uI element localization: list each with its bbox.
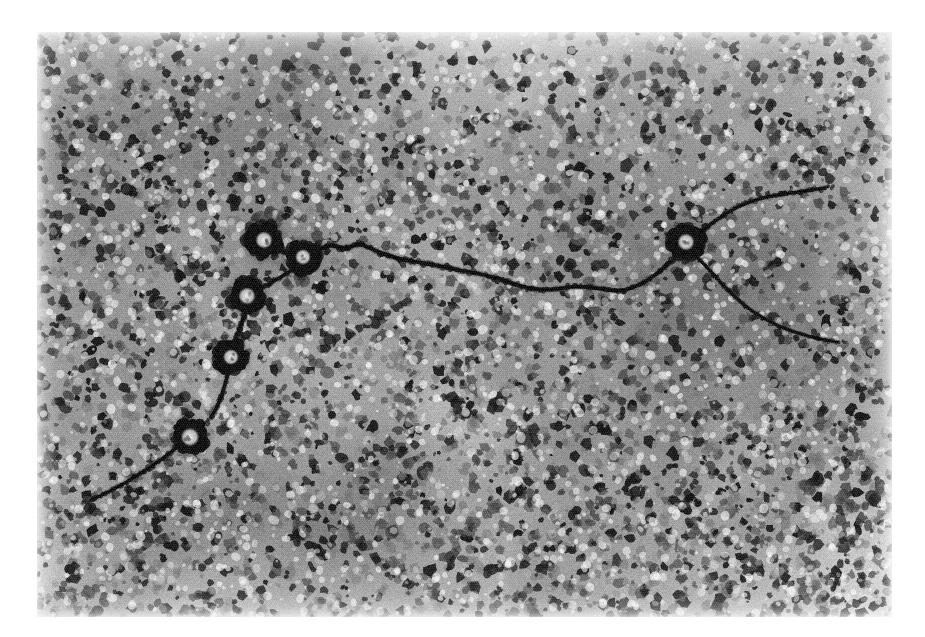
- electron-micrograph-image: [37, 32, 892, 617]
- micrograph-page: [0, 0, 925, 637]
- micrograph-canvas: [37, 32, 892, 617]
